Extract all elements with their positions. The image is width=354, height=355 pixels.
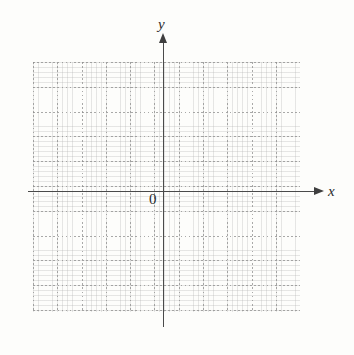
coordinate-grid-figure: x y 0 <box>0 0 354 355</box>
grid-horizontal-lines <box>33 62 300 312</box>
x-axis-label: x <box>328 184 335 199</box>
x-axis-line <box>28 191 318 192</box>
y-axis-arrowhead-icon <box>159 33 167 43</box>
grid-vertical-lines <box>33 62 300 312</box>
x-axis-arrowhead-icon <box>314 187 324 195</box>
graph-paper-grid <box>33 62 300 312</box>
y-axis-line <box>163 42 164 327</box>
y-axis-label: y <box>158 17 165 32</box>
origin-label: 0 <box>149 192 157 207</box>
grid-fine-dots <box>33 62 300 312</box>
